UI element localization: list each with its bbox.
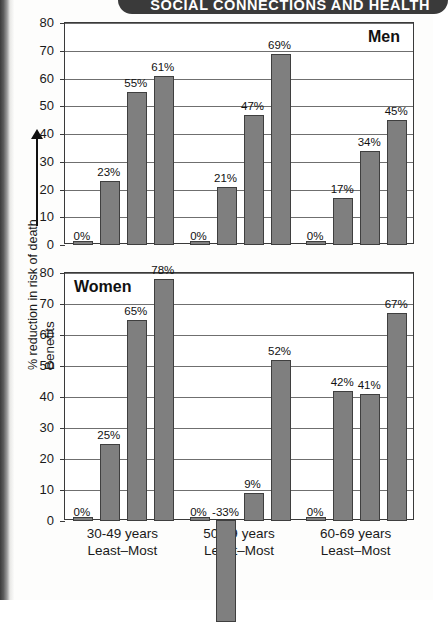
bar-value-label: 21% <box>214 172 237 184</box>
bar <box>154 279 174 521</box>
y-tick-label: 10 <box>0 482 54 497</box>
title-banner: SOCIAL CONNECTIONS AND HEALTH <box>118 0 448 14</box>
y-tick-label: 80 <box>0 15 54 30</box>
bar-value-label: 0% <box>190 506 207 518</box>
bar <box>333 391 353 521</box>
bar <box>333 198 353 245</box>
bar <box>217 187 237 245</box>
page-title: SOCIAL CONNECTIONS AND HEALTH <box>118 0 430 13</box>
bar <box>360 151 380 245</box>
bar <box>387 120 407 245</box>
bar <box>154 76 174 245</box>
y-tick-mark <box>60 106 65 107</box>
group-name: 30-49 years <box>87 526 158 543</box>
bar-value-label: 34% <box>358 136 381 148</box>
bar-value-label: 0% <box>190 230 207 242</box>
bar-value-label: 67% <box>385 298 408 310</box>
y-tick-mark <box>60 490 65 491</box>
bar-value-label: -33% <box>212 506 239 518</box>
y-tick-label: 70 <box>0 42 54 57</box>
y-tick-label: 50 <box>0 358 54 373</box>
panel-title: Men <box>368 28 400 46</box>
bar <box>216 520 236 622</box>
y-tick-label: 0 <box>0 513 54 528</box>
y-tick-label: 10 <box>0 209 54 224</box>
bar <box>100 444 120 522</box>
y-tick-label: 40 <box>0 126 54 141</box>
bar-value-label: 0% <box>74 230 91 242</box>
panel-title: Women <box>74 278 131 296</box>
x-axis-group-label: 60-69 yearsLeast–Most <box>320 526 391 560</box>
gridline <box>65 304 413 305</box>
y-tick-label: 80 <box>0 265 54 280</box>
y-tick-label: 30 <box>0 420 54 435</box>
bar-value-label: 0% <box>307 506 324 518</box>
y-tick-mark <box>60 23 65 24</box>
gridline <box>65 366 413 367</box>
group-range: Least–Most <box>87 543 158 560</box>
gridline <box>65 79 413 80</box>
group-range: Least–Most <box>320 543 391 560</box>
y-tick-label: 60 <box>0 70 54 85</box>
group-name: 60-69 years <box>320 526 391 543</box>
y-tick-mark <box>60 134 65 135</box>
bar-value-label: 55% <box>124 77 147 89</box>
bar-value-label: 23% <box>97 166 120 178</box>
bar-value-label: 65% <box>124 305 147 317</box>
x-axis-group-label: 30-49 yearsLeast–Most <box>87 526 158 560</box>
y-tick-label: 20 <box>0 451 54 466</box>
plot-area <box>64 22 414 244</box>
bar-value-label: 25% <box>97 429 120 441</box>
bar-value-label: 45% <box>385 105 408 117</box>
bar <box>387 313 407 521</box>
bar-value-label: 78% <box>151 264 174 276</box>
bar <box>271 54 291 245</box>
x-axis-group-label: 50-59 yearsLeast–Most <box>203 526 274 560</box>
bar-value-label: 17% <box>331 183 354 195</box>
y-tick-mark <box>60 366 65 367</box>
bar-value-label: 0% <box>307 230 324 242</box>
y-tick-mark <box>60 335 65 336</box>
bar <box>244 115 264 245</box>
y-tick-label: 20 <box>0 181 54 196</box>
bar <box>244 493 264 521</box>
bar-value-label: 9% <box>244 478 261 490</box>
gridline <box>65 51 413 52</box>
bar-value-label: 61% <box>151 61 174 73</box>
gridline <box>65 23 413 24</box>
group-name: 50-59 years <box>203 526 274 543</box>
y-tick-mark <box>60 245 65 246</box>
chart-panel-men <box>64 22 414 244</box>
bar-value-label: 69% <box>268 39 291 51</box>
y-tick-mark <box>60 217 65 218</box>
y-tick-mark <box>60 459 65 460</box>
bar-value-label: 0% <box>74 506 91 518</box>
y-tick-label: 70 <box>0 296 54 311</box>
y-tick-label: 60 <box>0 327 54 342</box>
plot-area <box>64 272 414 520</box>
bar-value-label: 42% <box>331 376 354 388</box>
y-tick-label: 0 <box>0 237 54 252</box>
bar-value-label: 52% <box>268 345 291 357</box>
y-tick-mark <box>60 190 65 191</box>
y-tick-mark <box>60 273 65 274</box>
gridline <box>65 335 413 336</box>
bar <box>360 394 380 521</box>
y-tick-mark <box>60 304 65 305</box>
y-tick-mark <box>60 521 65 522</box>
bar <box>127 320 147 522</box>
bar <box>127 92 147 245</box>
y-tick-mark <box>60 79 65 80</box>
y-tick-mark <box>60 428 65 429</box>
gridline <box>65 273 413 274</box>
y-tick-mark <box>60 162 65 163</box>
chart-panel-women <box>64 272 414 520</box>
y-tick-mark <box>60 51 65 52</box>
y-tick-label: 50 <box>0 98 54 113</box>
y-tick-label: 40 <box>0 389 54 404</box>
bar-value-label: 41% <box>358 379 381 391</box>
bar <box>100 181 120 245</box>
bar-value-label: 47% <box>241 100 264 112</box>
bar <box>271 360 291 521</box>
gridline <box>65 106 413 107</box>
